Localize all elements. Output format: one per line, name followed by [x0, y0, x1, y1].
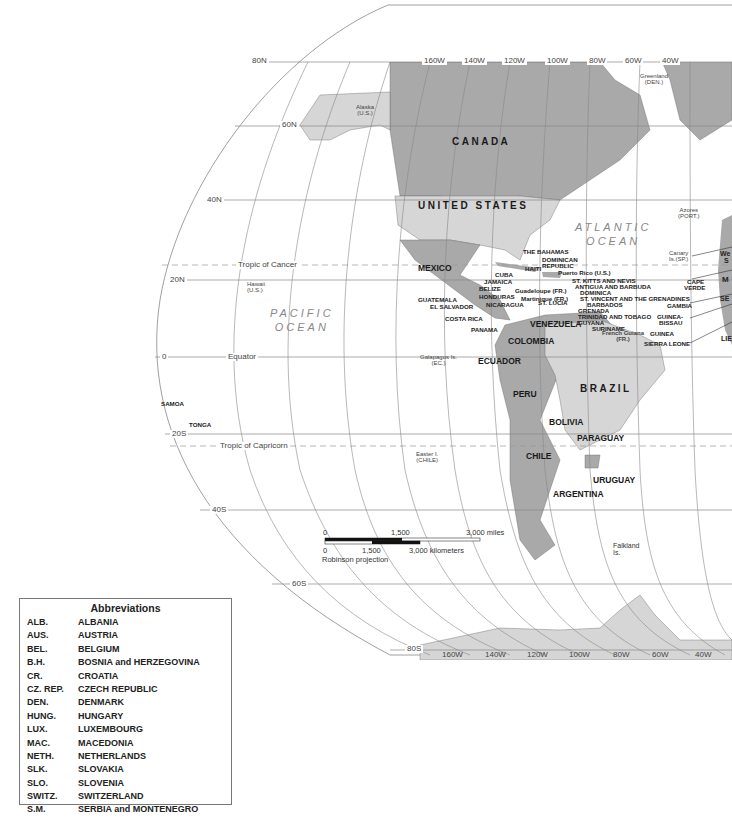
label-azores: Azores(PORT.) [678, 207, 700, 219]
label-bolivia: BOLIVIA [549, 418, 583, 427]
label-guinea: GUINEA [650, 331, 674, 337]
abbr-row: HUNG.HUNGARY [20, 710, 231, 723]
lat-label-80n: 80N [250, 57, 269, 65]
label-united-states: UNITED STATES [418, 201, 528, 211]
lon-top-60w: 60W [623, 57, 643, 65]
abbr-row: LUX.LUXEMBOURG [20, 723, 231, 736]
label-greenland: Greenland(DEN.) [640, 73, 668, 85]
label-nicaragua: NICARAGUA [486, 302, 524, 308]
land-canada [390, 62, 650, 200]
label-hawaii: Hawaii(U.S.) [247, 281, 265, 293]
label-cape-verde-2: VERDE [684, 285, 705, 291]
label-peru: PERU [513, 390, 537, 399]
label-easter-island: Easter I.(CHILE) [416, 451, 438, 463]
abbr-row: SWITZ.SWITZERLAND [20, 790, 231, 803]
abbr-row: SLK.SLOVAKIA [20, 763, 231, 776]
abbr-row: MAC.MACEDONIA [20, 737, 231, 750]
land-arctic-islands [500, 20, 640, 55]
label-costa-rica: COSTA RICA [445, 316, 483, 322]
label-alaska: Alaska(U.S.) [356, 104, 374, 116]
label-edge-se: SE [720, 295, 729, 302]
label-belize: BELIZE [479, 286, 501, 292]
abbr-row: AUS.AUSTRIA [20, 629, 231, 642]
scale-km-1500: 1,500 [362, 547, 381, 555]
abbr-row: CZ. REP.CZECH REPUBLIC [20, 683, 231, 696]
lon-top-140w: 140W [462, 57, 487, 65]
label-tonga: TONGA [189, 422, 211, 428]
label-gambia: GAMBIA [667, 303, 692, 309]
label-falkland: FalklandIs. [613, 542, 639, 556]
abbr-row: SLO.SLOVENIA [20, 777, 231, 790]
label-canada: CANADA [452, 137, 510, 147]
label-ecuador: ECUADOR [478, 357, 521, 366]
label-panama: PANAMA [471, 327, 498, 333]
label-edge-we: We [720, 250, 730, 257]
lon-bottom-160w: 160W [440, 651, 465, 659]
lat-label-0: 0 [160, 353, 168, 361]
label-chile: CHILE [526, 452, 552, 461]
label-puerto-rico: Puerto Rico (U.S.) [558, 270, 611, 276]
lon-bottom-40w: 40W [693, 651, 713, 659]
tropic-of-capricorn-label: Tropic of Capricorn [218, 442, 290, 450]
lat-label-20n: 20N [168, 276, 187, 284]
abbreviations-legend: Abbreviations ALB.ALBANIA AUS.AUSTRIA BE… [19, 598, 232, 805]
label-haiti: HAITI [525, 266, 541, 272]
label-honduras: HONDURAS [479, 294, 515, 300]
label-bahamas: THE BAHAMAS [523, 249, 569, 255]
tropic-of-cancer-label: Tropic of Cancer [236, 261, 299, 269]
lon-bottom-60w: 60W [650, 651, 670, 659]
label-sierra-leone: SIERRA LEONE [644, 341, 690, 347]
label-edge-m: M [722, 276, 729, 284]
lat-label-60s: 60S [290, 580, 308, 588]
label-uruguay: URUGUAY [593, 476, 635, 485]
scale-bar-graphic [325, 538, 480, 544]
land-alaska [300, 92, 390, 140]
label-el-salvador: EL SALVADOR [430, 304, 473, 310]
abbr-row: BEL.BELGIUM [20, 643, 231, 656]
label-dominican-2: REPUBLIC [542, 263, 574, 269]
label-edge-s: S [724, 257, 729, 264]
lon-bottom-100w: 100W [567, 651, 592, 659]
label-edge-lie: LIE [721, 335, 732, 342]
abbr-row: S.M.SERBIA and MONTENEGRO [20, 803, 231, 816]
lon-top-120w: 120W [502, 57, 527, 65]
abbr-row: DEN.DENMARK [20, 696, 231, 709]
label-brazil: BRAZIL [580, 384, 632, 394]
scale-miles-3000: 3,000 miles [466, 529, 504, 537]
scale-km-0: 0 [323, 547, 327, 555]
atlantic-ocean-label: ATLANTIC OCEAN [575, 220, 651, 249]
lon-top-40w: 40W [660, 57, 680, 65]
scale-miles-1500: 1,500 [391, 529, 410, 537]
lat-label-60n: 60N [280, 121, 299, 129]
label-samoa: SAMOA [161, 401, 184, 407]
lon-top-80w: 80W [587, 57, 607, 65]
lon-bottom-80w: 80W [611, 651, 631, 659]
abbreviations-title: Abbreviations [20, 602, 231, 614]
label-argentina: ARGENTINA [553, 490, 604, 499]
label-galapagos: Galapagos Is.(EC.) [420, 354, 457, 366]
label-mexico: MEXICO [418, 264, 452, 273]
scale-miles-0: 0 [323, 529, 327, 537]
abbr-row: B.H.BOSNIA and HERZEGOVINA [20, 656, 231, 669]
pacific-ocean-label: PACIFIC OCEAN [270, 306, 334, 335]
lon-top-100w: 100W [545, 57, 570, 65]
lon-bottom-140w: 140W [483, 651, 508, 659]
label-venezuela: VENEZUELA [530, 320, 581, 329]
lon-top-160w: 160W [422, 57, 447, 65]
lat-label-40n: 40N [205, 196, 224, 204]
label-st-lucia: ST. LUCIA [538, 300, 568, 306]
label-canary-islands: CanaryIs.(SP.) [669, 250, 688, 262]
projection-label: Robinson projection [322, 556, 388, 564]
equator-label: Equator [226, 353, 258, 361]
abbr-row: ALB.ALBANIA [20, 616, 231, 629]
label-guadeloupe: Guadeloupe (FR.) [515, 288, 567, 294]
lon-bottom-120w: 120W [525, 651, 550, 659]
scale-km-3000: 3,000 kilometers [409, 547, 464, 555]
abbr-row: NETH.NETHERLANDS [20, 750, 231, 763]
lat-label-20s: 20S [170, 430, 188, 438]
land-uruguay [585, 455, 600, 468]
label-guinea-bissau-2: BISSAU [659, 320, 682, 326]
label-colombia: COLOMBIA [508, 337, 554, 346]
lat-label-40s: 40S [210, 506, 228, 514]
lat-label-80s: 80S [405, 645, 423, 653]
